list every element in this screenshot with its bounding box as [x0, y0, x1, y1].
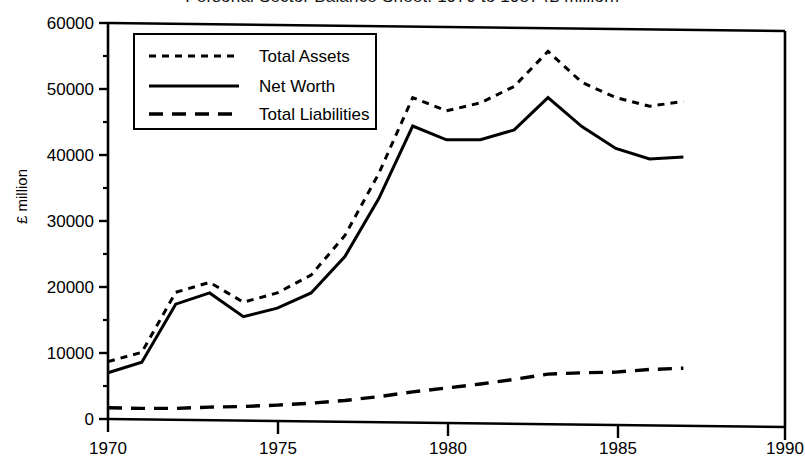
- chart-figure: Personal Sector Balance Sheet, 1970 to 1…: [0, 0, 805, 466]
- legend-swatch-solid-icon: [149, 79, 239, 93]
- legend-label-net-worth: Net Worth: [259, 78, 335, 95]
- legend-item-net-worth: Net Worth: [135, 71, 375, 101]
- legend-item-total-liabilities: Total Liabilities: [135, 99, 375, 129]
- legend-label-total-assets: Total Assets: [259, 48, 350, 65]
- legend-item-total-assets: Total Assets: [135, 41, 375, 71]
- legend-swatch-dotted-icon: [149, 49, 239, 63]
- series-line-net-worth: [108, 98, 683, 373]
- chart-legend: Total Assets Net Worth Total Liabilities: [133, 33, 377, 130]
- y-axis-major-ticks: [99, 23, 108, 419]
- series-line-total-liabilities: [108, 368, 683, 408]
- legend-label-total-liabilities: Total Liabilities: [259, 106, 370, 123]
- legend-swatch-dashed-icon: [149, 107, 239, 121]
- plot-area: [0, 0, 805, 466]
